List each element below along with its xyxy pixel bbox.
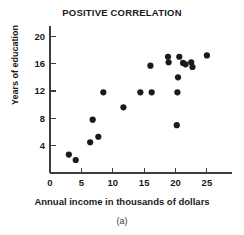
data-point xyxy=(100,89,106,95)
scatter-plot-figure: POSITIVE CORRELATION 051015202548121620 … xyxy=(0,0,244,235)
y-tick-label: 20 xyxy=(34,31,45,42)
data-point xyxy=(174,89,180,95)
data-point xyxy=(166,59,172,65)
figure-caption: (a) xyxy=(0,216,244,226)
y-tick-label: 12 xyxy=(34,85,45,96)
data-point xyxy=(137,89,143,95)
data-points xyxy=(66,52,210,163)
data-point xyxy=(66,151,72,157)
y-tick-label: 8 xyxy=(40,113,45,124)
data-point xyxy=(90,117,96,123)
x-tick-label: 0 xyxy=(47,177,52,188)
data-point xyxy=(189,64,195,70)
data-point xyxy=(73,157,79,163)
data-point xyxy=(175,74,181,80)
axes xyxy=(50,26,232,173)
y-tick-label: 16 xyxy=(34,58,45,69)
x-tick-label: 15 xyxy=(139,177,150,188)
data-point xyxy=(149,89,155,95)
data-point xyxy=(182,61,188,67)
data-point xyxy=(204,52,210,58)
axis-ticks xyxy=(50,36,207,173)
x-tick-label: 10 xyxy=(107,177,118,188)
x-tick-label: 25 xyxy=(202,177,213,188)
data-point xyxy=(95,134,101,140)
x-tick-label: 5 xyxy=(79,177,85,188)
data-point xyxy=(147,63,153,69)
data-point xyxy=(120,104,126,110)
data-point xyxy=(87,139,93,145)
x-axis-label: Annual income in thousands of dollars xyxy=(0,196,244,207)
x-tick-label: 20 xyxy=(170,177,181,188)
y-tick-label: 4 xyxy=(40,140,46,151)
data-point xyxy=(174,122,180,128)
data-point xyxy=(165,54,171,60)
data-point xyxy=(176,54,182,60)
y-axis-label: Years of education xyxy=(10,10,20,120)
